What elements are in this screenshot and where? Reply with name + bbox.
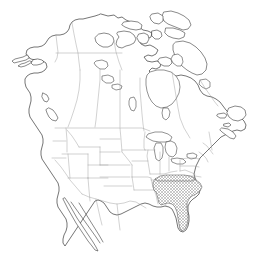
distribution-range-tennessee-lobe bbox=[155, 175, 195, 181]
range-map-figure bbox=[0, 0, 274, 256]
aleutian-chain-outline bbox=[18, 61, 32, 67]
boundary-mexico-state-1 bbox=[96, 199, 102, 225]
ellesmere-island-outline bbox=[162, 11, 191, 30]
somerset-island-outline bbox=[152, 30, 162, 39]
mainland-north-america-outline bbox=[25, 14, 246, 246]
mainland-landmass-group bbox=[25, 14, 246, 246]
gulf-of-california-east-shore bbox=[79, 203, 103, 242]
alaska-southcoast-outline bbox=[31, 59, 44, 65]
anticosti-island-outline bbox=[217, 113, 227, 118]
north-america-map bbox=[0, 0, 274, 256]
alaska-peninsula-outline bbox=[12, 55, 29, 63]
axel-heiberg-island-outline bbox=[150, 13, 163, 24]
